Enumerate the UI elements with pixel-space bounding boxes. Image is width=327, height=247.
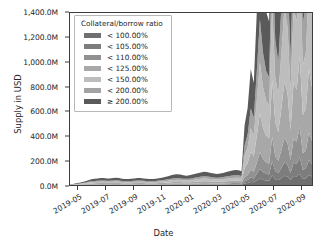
x-axis-tick-label: 2019-05 <box>51 192 83 216</box>
y-axis-tick-label: 1,400.0M <box>23 8 58 17</box>
y-axis-tick-mark <box>65 111 69 112</box>
x-axis-tick-mark <box>217 186 218 190</box>
legend-item[interactable]: ≥ 200.00% <box>80 96 166 107</box>
legend-color-swatch <box>84 88 101 93</box>
x-axis-tick-label: 2020-01 <box>163 192 195 216</box>
legend-color-swatch <box>84 77 101 82</box>
legend-item[interactable]: < 200.00% <box>80 85 166 96</box>
y-axis-tick-label: 600.0M <box>30 107 58 116</box>
y-axis-label: Supply in USD <box>13 54 23 154</box>
legend-color-swatch <box>84 55 101 60</box>
y-axis-tick-mark <box>65 36 69 37</box>
legend-item[interactable]: < 105.00% <box>80 41 166 52</box>
x-axis-label: Date <box>0 228 327 238</box>
x-axis-tick-mark <box>77 186 78 190</box>
x-axis-tick-label: 2019-09 <box>107 192 139 216</box>
y-axis-tick-mark <box>65 86 69 87</box>
y-axis-tick-label: 1,000.0M <box>23 57 58 66</box>
legend-item-label: < 105.00% <box>107 42 148 51</box>
legend-item-label: < 125.00% <box>107 64 148 73</box>
x-axis-tick-mark <box>189 186 190 190</box>
y-axis-tick-mark <box>65 161 69 162</box>
legend-item[interactable]: < 110.00% <box>80 52 166 63</box>
legend-item-label: < 150.00% <box>107 75 148 84</box>
y-axis-tick-mark <box>65 12 69 13</box>
x-axis-tick-mark <box>133 186 134 190</box>
x-axis-tick-mark <box>245 186 246 190</box>
chart-figure: 1,400.0M1,200.0M1,000.0M800.0M600.0M400.… <box>0 0 327 247</box>
x-axis-tick-label: 2019-11 <box>135 192 167 216</box>
x-axis-tick-label: 2020-07 <box>247 192 279 216</box>
y-axis-tick-label: 200.0M <box>30 157 58 166</box>
x-axis-tick-mark <box>105 186 106 190</box>
y-axis-tick-mark <box>65 186 69 187</box>
x-axis-tick-label: 2020-09 <box>275 192 307 216</box>
legend-item-label: < 100.00% <box>107 31 148 40</box>
legend-color-swatch <box>84 66 101 71</box>
legend-entries: < 100.00%< 105.00%< 110.00%< 125.00%< 15… <box>80 30 166 107</box>
legend-color-swatch <box>84 33 101 38</box>
legend-item[interactable]: < 125.00% <box>80 63 166 74</box>
legend-color-swatch <box>84 99 101 104</box>
legend-item-label: < 200.00% <box>107 86 148 95</box>
y-axis-tick-mark <box>65 61 69 62</box>
x-axis-tick-mark <box>301 186 302 190</box>
y-axis-tick-label: 800.0M <box>30 82 58 91</box>
y-axis-tick-label: 400.0M <box>30 132 58 141</box>
legend-item-label: ≥ 200.00% <box>107 97 148 106</box>
x-axis-tick-label: 2019-07 <box>79 192 111 216</box>
x-axis-tick-mark <box>161 186 162 190</box>
x-axis-tick-label: 2020-05 <box>219 192 251 216</box>
y-axis-tick-label: 0.0M <box>40 182 58 191</box>
y-axis-tick-label: 1,200.0M <box>23 32 58 41</box>
legend: Collateral/borrow ratio < 100.00%< 105.0… <box>74 15 172 112</box>
y-axis-tick-labels: 1,400.0M1,200.0M1,000.0M800.0M600.0M400.… <box>0 12 64 186</box>
legend-item-label: < 110.00% <box>107 53 148 62</box>
y-axis-tick-mark <box>65 136 69 137</box>
legend-color-swatch <box>84 44 101 49</box>
legend-item[interactable]: < 100.00% <box>80 30 166 41</box>
legend-title: Collateral/borrow ratio <box>81 19 166 28</box>
x-axis-tick-label: 2020-03 <box>191 192 223 216</box>
x-axis-tick-mark <box>273 186 274 190</box>
legend-item[interactable]: < 150.00% <box>80 74 166 85</box>
